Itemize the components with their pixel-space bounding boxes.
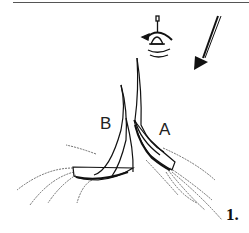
boat-a-label: A	[159, 120, 170, 140]
bell-buoy-icon	[142, 16, 172, 57]
wind-arrow-icon	[194, 16, 221, 70]
illustration	[0, 0, 249, 233]
figure-number: 1.	[226, 205, 239, 225]
wake-lines	[17, 145, 222, 220]
boat-b-label: B	[100, 114, 111, 134]
diagram-canvas: B A 1.	[0, 0, 249, 233]
sailboat-a	[134, 58, 175, 170]
